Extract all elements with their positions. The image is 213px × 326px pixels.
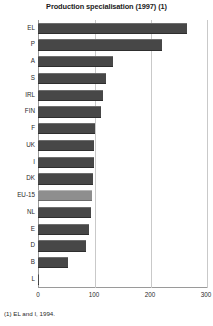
bar-p — [38, 39, 162, 50]
bar-i — [38, 157, 94, 168]
category-label-e: E — [2, 225, 35, 232]
bar-row: NL — [38, 204, 207, 221]
chart-title: Production specialisation (1997) (1) — [0, 2, 213, 11]
category-label-d: D — [2, 241, 35, 248]
bars-layer: EL P A S IRL FIN F UK — [38, 20, 207, 288]
bar-row: I — [38, 154, 207, 171]
bar-row: UK — [38, 137, 207, 154]
category-label-b: B — [2, 258, 35, 265]
bar-irl — [38, 90, 103, 101]
bar-el — [38, 23, 187, 34]
category-label-s: S — [2, 74, 35, 81]
xtick-200: 200 — [135, 291, 165, 298]
bar-l — [38, 274, 39, 285]
category-label-a: A — [2, 57, 35, 64]
xtick-300: 300 — [191, 291, 213, 298]
chart-footnote: (1) EL and I, 1994. — [4, 310, 55, 318]
category-label-f: F — [2, 124, 35, 131]
xtick-100: 100 — [79, 291, 109, 298]
category-label-fin: FIN — [2, 107, 35, 114]
category-label-uk: UK — [2, 141, 35, 148]
bar-e — [38, 224, 89, 235]
category-label-i: I — [2, 158, 35, 165]
category-label-dk: DK — [2, 174, 35, 181]
bar-row: P — [38, 37, 207, 54]
bar-row: A — [38, 54, 207, 71]
bar-s — [38, 73, 106, 84]
bar-row: DK — [38, 171, 207, 188]
category-label-eu15: EU-15 — [2, 191, 35, 198]
bar-dk — [38, 173, 93, 184]
bar-nl — [38, 207, 91, 218]
bar-b — [38, 257, 68, 268]
bar-row: IRL — [38, 87, 207, 104]
bar-d — [38, 240, 86, 251]
bar-row: E — [38, 221, 207, 238]
gridline-300 — [207, 20, 208, 288]
bar-row: EU-15 — [38, 188, 207, 205]
category-label-l: L — [2, 275, 35, 282]
xtick-0: 0 — [23, 291, 53, 298]
category-label-nl: NL — [2, 208, 35, 215]
bar-a — [38, 56, 113, 67]
bar-uk — [38, 140, 94, 151]
category-label-irl: IRL — [2, 91, 35, 98]
category-label-el: EL — [2, 24, 35, 31]
bar-row: FIN — [38, 104, 207, 121]
bar-fin — [38, 106, 101, 117]
category-label-p: P — [2, 40, 35, 47]
bar-f — [38, 123, 95, 134]
bar-row: D — [38, 238, 207, 255]
chart-figure: Production specialisation (1997) (1) EL … — [0, 0, 213, 326]
bar-row: S — [38, 70, 207, 87]
bar-row: B — [38, 255, 207, 272]
bar-row: L — [38, 271, 207, 288]
bar-row: EL — [38, 20, 207, 37]
bar-row: F — [38, 121, 207, 138]
bar-eu15 — [38, 190, 92, 201]
